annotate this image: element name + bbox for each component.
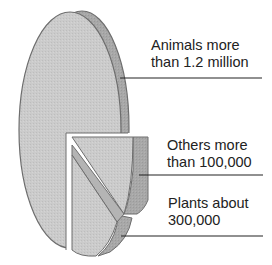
label-plants-line1: Plants about <box>168 195 249 212</box>
label-others: Others more than 100,000 <box>167 137 252 171</box>
label-animals-line2: than 1.2 million <box>151 54 249 71</box>
label-others-line2: than 100,000 <box>167 154 252 171</box>
label-plants: Plants about 300,000 <box>168 195 249 229</box>
label-animals: Animals more than 1.2 million <box>151 37 249 71</box>
label-plants-line2: 300,000 <box>168 212 249 229</box>
label-others-line1: Others more <box>167 137 252 154</box>
label-animals-line1: Animals more <box>151 37 249 54</box>
